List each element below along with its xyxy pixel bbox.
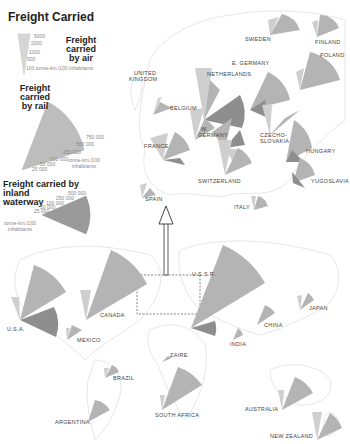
- label-argentina: ARGENTINA: [55, 419, 90, 425]
- label-france: FRANCE: [144, 143, 168, 149]
- label-yugoslavia: YUGOSLAVIA: [311, 178, 349, 184]
- legend-rail-unit: tonne-km./100 inhabitants: [68, 157, 100, 169]
- label-spain: SPAIN: [145, 196, 163, 202]
- label-new-zealand: NEW ZEALAND: [270, 433, 313, 439]
- world-sectors: [11, 245, 342, 440]
- label-japan: JAPAN: [309, 305, 328, 311]
- label-china: CHINA: [264, 322, 283, 328]
- page-title: Freight Carried: [8, 10, 94, 24]
- legend-air-title-line1: Freight carried: [52, 36, 110, 54]
- label-hungary: HUNGARY: [306, 148, 336, 154]
- label-netherlands: NETHERLANDS: [207, 71, 251, 77]
- freight-map: Freight Carried Freight carried by air 5…: [0, 0, 350, 444]
- legend-rail-unit-line2: inhabitants: [68, 163, 100, 169]
- legend-air-tick: 500: [27, 56, 35, 62]
- legend-waterway-tick: 25 000: [34, 208, 49, 214]
- label-belgium: BELGIUM: [170, 105, 197, 111]
- legend-rail-tick: 500 000: [76, 141, 94, 147]
- label-italy: ITALY: [234, 204, 250, 210]
- label-brazil: BRAZIL: [113, 375, 134, 381]
- legend-air-tick: 5000: [34, 33, 45, 39]
- label-ussr: U.S.S.R.: [192, 271, 216, 277]
- label-australia: AUSTRALIA: [245, 406, 278, 412]
- legend-air-tick: 1000: [29, 49, 40, 55]
- legend-waterway-unit-line2: inhabitants: [4, 226, 36, 232]
- label-mexico: MEXICO: [77, 337, 101, 343]
- label-switzerland: SWITZERLAND: [198, 178, 241, 184]
- label-canada: CANADA: [100, 312, 125, 318]
- legend-rail-tick: 250 000: [63, 149, 81, 155]
- label-slovakia: SLOVAKIA: [260, 138, 289, 144]
- legend-rail-title-line2: by rail: [4, 102, 66, 111]
- label-zaire: ZAIRE: [170, 352, 188, 358]
- label-w-germany: GERMANY: [198, 132, 228, 138]
- label-sweden: SWEDEN: [245, 36, 271, 42]
- label-india: INDIA: [230, 341, 246, 347]
- label-finland: FINLAND: [315, 39, 341, 45]
- legend-waterway-title-line1: Freight carried by inland: [3, 180, 103, 198]
- legend-air-tick: 2000: [31, 40, 42, 46]
- legend-air-title: Freight carried by air: [52, 36, 110, 63]
- legend-air-title-line2: by air: [52, 54, 110, 63]
- label-united-kingdom-2: KINGDOM: [129, 76, 157, 82]
- legend-rail-title-line1: Freight carried: [4, 84, 66, 102]
- label-usa: U.S.A.: [7, 326, 25, 332]
- europe-inset-frame: [137, 275, 200, 314]
- legend-rail-title: Freight carried by rail: [4, 84, 66, 111]
- legend-rail-tick: 25 000: [32, 166, 47, 172]
- up-arrow-icon: [159, 206, 173, 275]
- label-south-africa: SOUTH AFRICA: [155, 412, 199, 418]
- legend-rail-tick: 750 000: [86, 134, 104, 140]
- label-e-germany: E. GERMANY: [232, 60, 270, 66]
- legend-waterway-unit: tonne-km./100 inhabitants: [4, 220, 36, 232]
- legend-air-tick: 100 tonne-km./100 inhabitants: [26, 65, 93, 71]
- label-poland: POLAND: [320, 52, 344, 58]
